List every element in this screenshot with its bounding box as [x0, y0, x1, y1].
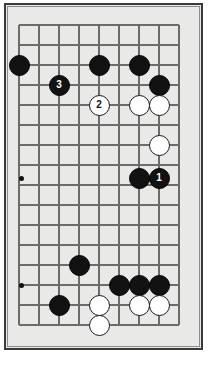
white-stone[interactable] — [129, 295, 150, 316]
white-stone[interactable] — [89, 315, 110, 336]
white-stone[interactable] — [149, 135, 170, 156]
black-stone[interactable] — [149, 75, 170, 96]
stones-layer: 321 — [0, 0, 210, 365]
black-stone[interactable] — [109, 275, 130, 296]
stone-move-number: 3 — [56, 80, 62, 90]
black-stone[interactable] — [49, 295, 70, 316]
black-stone[interactable] — [149, 275, 170, 296]
black-stone[interactable] — [69, 255, 90, 276]
black-stone[interactable] — [129, 275, 150, 296]
white-stone[interactable] — [89, 295, 110, 316]
white-stone[interactable] — [149, 95, 170, 116]
stone-move-number: 1 — [156, 173, 162, 183]
white-stone[interactable] — [149, 295, 170, 316]
black-stone[interactable] — [129, 55, 150, 76]
numbered-black-stone[interactable]: 1 — [149, 168, 170, 189]
star-point-left-lower — [19, 283, 24, 288]
black-stone[interactable] — [89, 55, 110, 76]
black-stone[interactable] — [129, 168, 150, 189]
numbered-black-stone[interactable]: 3 — [49, 75, 70, 96]
go-board-diagram: 321 — [0, 0, 210, 365]
numbered-white-stone[interactable]: 2 — [89, 95, 110, 116]
white-stone[interactable] — [129, 95, 150, 116]
black-stone[interactable] — [9, 55, 30, 76]
stone-move-number: 2 — [96, 100, 102, 110]
star-point-left-upper — [19, 176, 24, 181]
